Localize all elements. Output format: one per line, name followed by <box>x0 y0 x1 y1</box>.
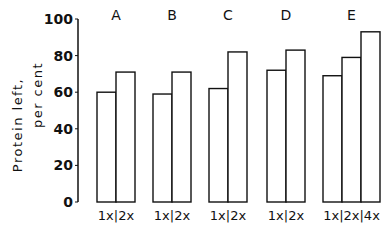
group-label: E <box>347 7 356 23</box>
bar <box>97 92 116 202</box>
bar-groups: A1x|2xB1x|2xC1x|2xD1x|2xE1x|2x|4x <box>97 7 380 223</box>
group-tick-label: 1x|2x <box>268 208 305 223</box>
bar-chart: 020406080100 Protein left,per cent A1x|2… <box>0 0 388 247</box>
y-tick-label: 0 <box>63 194 73 210</box>
bar <box>116 72 135 202</box>
bar <box>172 72 191 202</box>
group-tick-label: 1x|2x <box>154 208 191 223</box>
y-tick-label: 100 <box>44 11 73 27</box>
bar <box>323 76 342 202</box>
y-axis-label-line: Protein left, <box>10 78 25 172</box>
group-tick-label: 1x|2x <box>210 208 247 223</box>
bar <box>153 94 172 202</box>
bar <box>286 50 305 202</box>
bar <box>342 57 361 202</box>
y-tick-label: 60 <box>54 84 74 100</box>
group-tick-label: 1x|2x|4x <box>323 208 380 223</box>
y-axis-label-line: per cent <box>30 62 45 128</box>
bar <box>228 52 247 202</box>
bar-group-d: D1x|2x <box>267 7 305 223</box>
y-axis-label: Protein left,per cent <box>10 62 45 172</box>
bar-group-b: B1x|2x <box>153 7 191 223</box>
group-label: C <box>223 7 233 23</box>
group-label: D <box>281 7 292 23</box>
bar <box>361 32 380 202</box>
group-label: B <box>167 7 177 23</box>
y-tick-label: 80 <box>54 48 74 64</box>
bar-group-a: A1x|2x <box>97 7 135 223</box>
y-tick-label: 20 <box>54 157 74 173</box>
y-tick-label: 40 <box>54 121 74 137</box>
bar-group-c: C1x|2x <box>209 7 247 223</box>
group-label: A <box>111 7 121 23</box>
bar-group-e: E1x|2x|4x <box>323 7 380 223</box>
bar <box>209 89 228 202</box>
y-axis: 020406080100 <box>44 11 78 210</box>
bar <box>267 70 286 202</box>
group-tick-label: 1x|2x <box>98 208 135 223</box>
